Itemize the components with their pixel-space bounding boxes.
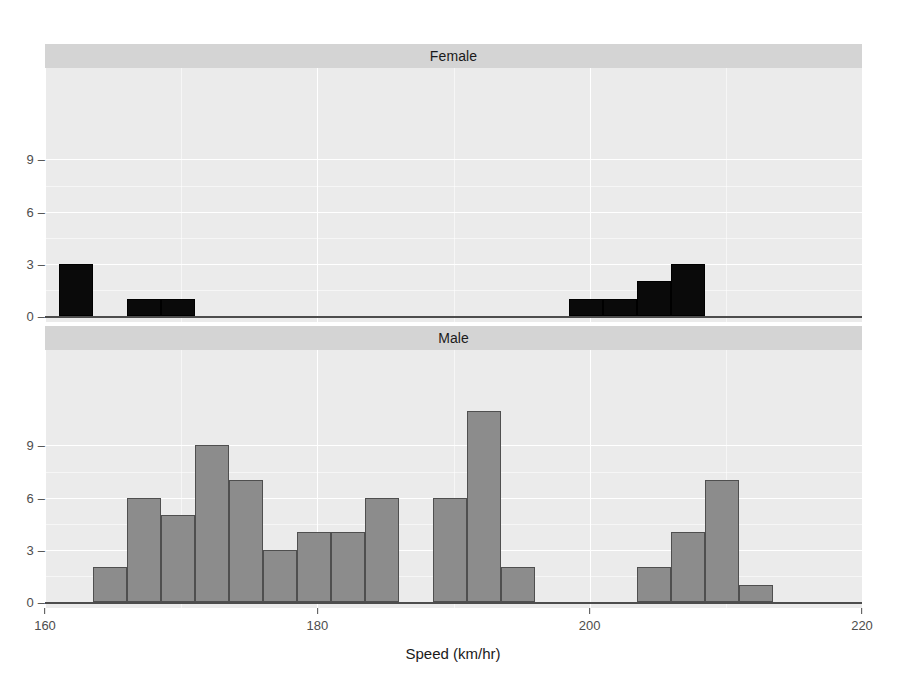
histogram-bar [229, 480, 263, 602]
x-axis-title: Speed (km/hr) [0, 645, 906, 662]
panel-strip-label-male: Male [438, 330, 469, 346]
panel-strip-female: Female [45, 44, 862, 68]
y-axis-tick-mark: – [38, 256, 45, 271]
x-axis-tick: 220 [851, 608, 873, 633]
histogram-bar [603, 299, 637, 316]
x-axis-tick-label: 160 [34, 618, 56, 633]
histogram-bar [467, 411, 501, 602]
panel-strip-male: Male [45, 326, 862, 350]
histogram-bar [637, 281, 671, 316]
plot-area-male [45, 350, 862, 608]
histogram-bar [297, 532, 331, 602]
histogram-bar [671, 264, 705, 316]
histogram-bar [365, 498, 399, 602]
gridline-vertical [45, 350, 46, 608]
histogram-bar [501, 567, 535, 602]
panel-male: Male [45, 326, 862, 608]
y-axis-tick-label: 6– [5, 490, 45, 505]
gridline-vertical-minor [181, 68, 182, 322]
histogram-bar [195, 445, 229, 602]
x-axis-tick: 180 [306, 608, 328, 633]
histogram-bar [671, 532, 705, 602]
x-axis-tick-label: 200 [579, 618, 601, 633]
histogram-bar [433, 498, 467, 602]
histogram-bar [569, 299, 603, 316]
y-axis-tick-label: 3– [5, 256, 45, 271]
gridline-vertical [45, 68, 46, 322]
gridline-vertical-minor [454, 68, 455, 322]
x-axis-tick-label: 220 [851, 618, 873, 633]
y-axis-tick-mark: – [38, 152, 45, 167]
y-axis-tick-mark: – [38, 490, 45, 505]
y-axis-male: 0–3–6–9– [0, 350, 45, 608]
y-axis-female: 0–3–6–9– [0, 68, 45, 322]
y-axis-tick-label: 3– [5, 542, 45, 557]
histogram-bar [161, 515, 195, 602]
histogram-figure: Female 0–3–6–9– Male 0–3–6–9– 1601802002… [0, 0, 906, 690]
histogram-bar [93, 567, 127, 602]
gridline-vertical [590, 350, 591, 608]
y-axis-tick-mark: – [38, 204, 45, 219]
y-axis-tick-label: 6– [5, 204, 45, 219]
y-axis-tick-mark: – [38, 438, 45, 453]
plot-area-female [45, 68, 862, 322]
histogram-bar [263, 550, 297, 602]
gridline-vertical-minor [726, 68, 727, 322]
x-axis-tick-mark [317, 608, 318, 614]
panel-female: Female [45, 44, 862, 322]
x-axis-tick-mark [589, 608, 590, 614]
histogram-bar [127, 299, 161, 316]
y-axis-tick-label: 9– [5, 438, 45, 453]
histogram-bar [59, 264, 93, 316]
y-axis-tick-mark: – [38, 542, 45, 557]
histogram-bar [127, 498, 161, 602]
y-axis-tick-label: 9– [5, 152, 45, 167]
x-axis-tick: 160 [34, 608, 56, 633]
histogram-bar [705, 480, 739, 602]
x-axis-tick-mark [44, 608, 45, 614]
histogram-bar [739, 585, 773, 602]
x-axis-tick-mark [861, 608, 862, 614]
x-axis-tick: 200 [579, 608, 601, 633]
axis-baseline [45, 316, 862, 318]
gridline-vertical [317, 68, 318, 322]
y-axis-tick-mark: – [38, 309, 45, 324]
axis-baseline [45, 602, 862, 604]
panel-strip-label-female: Female [430, 48, 477, 64]
histogram-bar [331, 532, 365, 602]
histogram-bar [637, 567, 671, 602]
y-axis-tick-label: 0– [5, 309, 45, 324]
x-axis-tick-label: 180 [306, 618, 328, 633]
x-axis: 160180200220 [45, 608, 862, 642]
histogram-bar [161, 299, 195, 316]
gridline-vertical [590, 68, 591, 322]
